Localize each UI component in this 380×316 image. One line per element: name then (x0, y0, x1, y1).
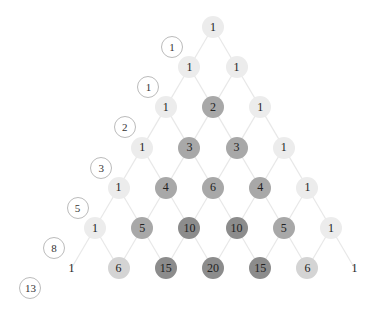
triangle-node: 4 (249, 177, 271, 199)
triangle-node: 3 (226, 137, 248, 159)
pascal-triangle-diagram: 111121133114641151010511615201561 112358… (0, 0, 380, 316)
triangle-node: 1 (131, 137, 153, 159)
triangle-node: 1 (108, 177, 130, 199)
triangle-node: 1 (320, 217, 342, 239)
triangle-node: 10 (226, 217, 248, 239)
triangle-node: 1 (226, 56, 248, 78)
triangle-node: 1 (202, 16, 224, 38)
triangle-node: 4 (155, 177, 177, 199)
triangle-node: 3 (178, 137, 200, 159)
fibonacci-sum-circle: 5 (67, 197, 89, 219)
triangle-node: 6 (202, 177, 224, 199)
triangle-node: 1 (84, 217, 106, 239)
triangle-node: 1 (344, 257, 366, 279)
triangle-node: 6 (108, 257, 130, 279)
fibonacci-sum-circle: 1 (161, 36, 183, 58)
fibonacci-sum-circle: 3 (90, 157, 112, 179)
triangle-node: 15 (155, 257, 177, 279)
triangle-node: 1 (273, 137, 295, 159)
fibonacci-sum-circle: 8 (43, 237, 65, 259)
triangle-node: 5 (273, 217, 295, 239)
